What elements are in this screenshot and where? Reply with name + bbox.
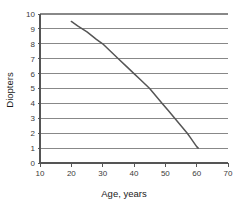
y-tick-label-1: 1 <box>31 144 36 153</box>
x-tick-label-40: 40 <box>130 169 139 178</box>
y-tick-label-5: 5 <box>31 84 36 93</box>
y-tick-label-10: 10 <box>26 10 35 19</box>
x-tick-label-60: 60 <box>192 169 201 178</box>
y-tick-label-4: 4 <box>31 99 36 108</box>
x-tick-label-70: 70 <box>224 169 233 178</box>
accommodation-vs-age-line-chart: 012345678910 10203040506070 Age, years D… <box>0 0 240 206</box>
x-axis-title: Age, years <box>101 188 147 199</box>
gridline-group <box>38 14 229 163</box>
x-tick-label-30: 30 <box>98 169 107 178</box>
chart-container: 012345678910 10203040506070 Age, years D… <box>0 0 240 206</box>
y-tick-label-6: 6 <box>31 70 36 79</box>
y-tick-label-2: 2 <box>31 129 36 138</box>
x-tick-label-10: 10 <box>36 169 45 178</box>
y-tick-label-3: 3 <box>31 114 36 123</box>
x-tick-label-20: 20 <box>67 169 76 178</box>
y-tick-label-8: 8 <box>31 40 36 49</box>
data-series-group <box>71 21 198 148</box>
y-tick-label-9: 9 <box>31 25 36 34</box>
y-axis-title: Diopters <box>4 72 15 108</box>
x-tick-label-group: 10203040506070 <box>36 169 233 178</box>
series-line-0 <box>71 21 198 148</box>
x-tick-label-50: 50 <box>161 169 170 178</box>
y-tick-label-7: 7 <box>31 55 36 64</box>
y-tick-label-group: 012345678910 <box>26 10 35 168</box>
y-tick-label-0: 0 <box>31 159 36 168</box>
